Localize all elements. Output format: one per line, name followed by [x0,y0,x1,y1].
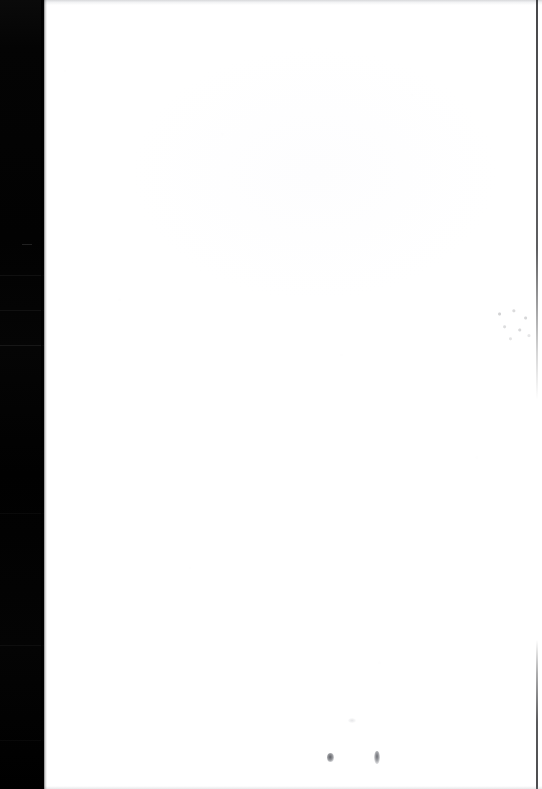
gutter-seam-4 [0,513,44,514]
scanner-gutter-edge [41,0,47,789]
page-body-text [70,60,510,720]
gutter-speck [22,244,32,245]
gutter-seam-2 [0,310,44,311]
scan-edge-right-lower [536,640,538,789]
scan-edge-right-upper [536,0,538,400]
ink-mark-left [327,753,334,762]
scan-edge-top [44,0,542,5]
scanned-page [0,0,542,789]
gutter-seam-3 [0,345,44,346]
ink-mark-right [374,751,380,764]
gutter-seam-5 [0,645,44,646]
speckle-cluster-artifact [492,306,534,346]
gutter-seam-6 [0,740,44,741]
scanner-gutter [0,0,44,789]
faint-smudge-artifact [348,718,356,723]
gutter-seam-1 [0,275,44,276]
